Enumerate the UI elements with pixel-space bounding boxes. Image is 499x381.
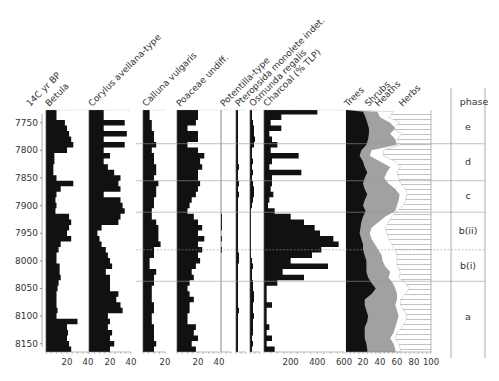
phase-label: d xyxy=(465,156,471,167)
age-tick-label: 8050 xyxy=(15,283,38,293)
phase-label: b(i) xyxy=(460,260,476,271)
x-tick-label: 20 xyxy=(105,357,116,367)
phase-label: b(ii) xyxy=(459,225,478,236)
x-tick-label: 40 xyxy=(126,357,137,367)
pollen-bars xyxy=(236,110,239,352)
pollen-bars xyxy=(177,110,204,352)
x-tick-label: 60 xyxy=(392,357,403,367)
x-tick-label: 20 xyxy=(160,357,171,367)
summary-label-trees: Trees xyxy=(342,85,367,110)
x-tick-label: 40 xyxy=(214,357,225,367)
pollen-bars xyxy=(143,110,161,352)
age-tick-label: 7800 xyxy=(15,145,38,155)
age-tick-label: 7900 xyxy=(15,201,38,211)
age-tick-label: 8000 xyxy=(15,256,38,266)
x-tick-label: 20 xyxy=(193,357,204,367)
phase-title: phase xyxy=(460,96,489,107)
x-tick-label: 40 xyxy=(375,357,386,367)
phase-label: e xyxy=(465,121,471,132)
pollen-bars xyxy=(264,110,339,352)
pollen-bars xyxy=(89,110,127,352)
pollen-bars xyxy=(46,110,78,352)
x-tick-label: 400 xyxy=(309,357,325,367)
x-tick-label: 200 xyxy=(283,357,299,367)
panel-pteropsida-monolete-indet: Pteropsida monolete indet. xyxy=(233,15,326,354)
age-tick-label: 8150 xyxy=(15,339,38,349)
panel-charcoal-tlp: 200400600Charcoal (% TLP) xyxy=(261,47,352,367)
summary-panel: 20406080100TreesShrubsHeathsHerbs xyxy=(342,79,439,367)
phase-label: a xyxy=(465,311,471,322)
age-tick-label: 7750 xyxy=(15,118,38,128)
x-tick-label: 20 xyxy=(358,357,369,367)
x-tick-label: 600 xyxy=(336,357,352,367)
pollen-diagram: 77507800785079007950800080508100815014C … xyxy=(0,0,499,381)
age-tick-label: 7850 xyxy=(15,173,38,183)
age-tick-label: 8100 xyxy=(15,311,38,321)
x-tick-label: 40 xyxy=(83,357,94,367)
pollen-diagram-svg: 77507800785079007950800080508100815014C … xyxy=(0,0,499,381)
phase-label: c xyxy=(465,190,470,201)
age-tick-label: 7950 xyxy=(15,228,38,238)
x-tick-label: 80 xyxy=(409,357,420,367)
panel-betula: 2040Betula xyxy=(43,81,93,367)
x-tick-label: 20 xyxy=(62,357,73,367)
x-tick-label: 100 xyxy=(423,357,439,367)
pollen-bars xyxy=(250,110,255,352)
